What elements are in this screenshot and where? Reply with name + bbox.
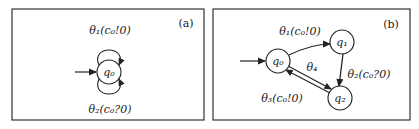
automata-figure: (a) q₀ θ₁(c₀!0) θ₂(c₀?0) (b) q₀ q₁ q₂ θ₁… <box>0 0 419 129</box>
panel-a-tag: (a) <box>178 17 193 30</box>
state-q0-label: q₀ <box>272 55 284 68</box>
edge-q0-q1 <box>289 44 330 55</box>
transition-label-theta4: θ₄ <box>306 61 317 74</box>
panel-b: (b) q₀ q₁ q₂ θ₁(c₀!0) θ₂(c₀?0) θ₃(c₀!0) … <box>213 9 410 120</box>
transition-label-theta3: θ₃(c₀!0) <box>261 92 303 105</box>
transition-label-theta2: θ₂(c₀?0) <box>347 68 390 81</box>
transition-label-bottom: θ₂(c₀?0) <box>88 103 131 116</box>
state-q2-label: q₂ <box>334 92 345 105</box>
edge-q1-q2 <box>339 54 343 86</box>
transition-label-top: θ₁(c₀!0) <box>89 24 131 37</box>
transition-label-theta1: θ₁(c₀!0) <box>279 25 321 38</box>
panel-b-tag: (b) <box>383 18 399 31</box>
state-q0-label: q₀ <box>103 66 115 79</box>
panel-a: (a) q₀ θ₁(c₀!0) θ₂(c₀?0) <box>12 9 204 120</box>
state-q1-label: q₁ <box>336 36 347 49</box>
